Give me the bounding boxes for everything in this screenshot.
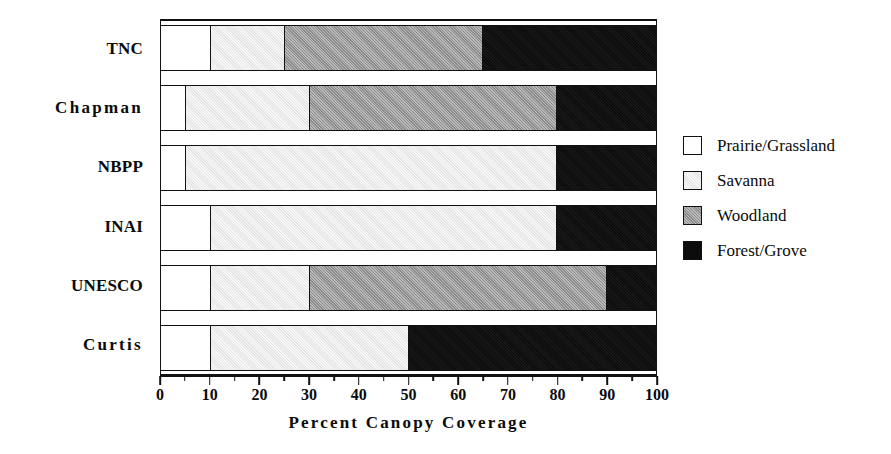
legend-label: Savanna: [717, 171, 775, 191]
bar-segment-woodland: [310, 266, 607, 310]
x-tick-label: 100: [645, 386, 669, 404]
legend: Prairie/GrasslandSavannaWoodlandForest/G…: [683, 128, 888, 268]
bar-segment-prairie: [161, 86, 186, 130]
category-label: UNESCO: [6, 256, 152, 315]
x-tick-major: [457, 376, 459, 385]
bar-segment-prairie: [161, 266, 211, 310]
x-tick-major: [308, 376, 310, 385]
x-tick-major: [159, 376, 161, 385]
bar-row: [161, 25, 656, 71]
category-axis-labels: TNCChapmanNBPPINAIUNESCOCurtis: [6, 19, 152, 375]
legend-swatch-forest: [683, 241, 702, 260]
x-tick-major: [209, 376, 211, 385]
x-tick-minor: [433, 376, 435, 381]
x-tick-major: [656, 376, 658, 385]
legend-swatch-prairie: [683, 136, 702, 155]
bar-segment-savanna: [211, 26, 285, 70]
stacked-bars: [161, 21, 656, 374]
legend-label: Prairie/Grassland: [717, 136, 835, 156]
bar-segment-prairie: [161, 26, 211, 70]
x-tick-label: 70: [500, 386, 516, 404]
bar-segment-woodland: [310, 86, 558, 130]
x-tick-minor: [631, 376, 633, 381]
legend-label: Woodland: [717, 206, 786, 226]
x-tick-minor: [383, 376, 385, 381]
x-tick-major: [259, 376, 261, 385]
bar-segment-woodland: [285, 26, 483, 70]
legend-swatch-savanna: [683, 171, 702, 190]
bar-row: [161, 265, 656, 311]
bar-row: [161, 85, 656, 131]
category-label: INAI: [6, 197, 152, 256]
legend-item: Prairie/Grassland: [683, 128, 888, 163]
plot-area: [160, 19, 657, 375]
x-tick-label: 0: [156, 386, 164, 404]
x-axis-tick-labels: 0102030405060708090100: [160, 386, 657, 408]
legend-item: Forest/Grove: [683, 233, 888, 268]
x-tick-minor: [333, 376, 335, 381]
category-label: TNC: [6, 19, 152, 78]
x-tick-label: 10: [202, 386, 218, 404]
x-tick-minor: [482, 376, 484, 381]
x-tick-major: [606, 376, 608, 385]
bar-segment-forest: [557, 206, 656, 250]
x-tick-minor: [532, 376, 534, 381]
x-axis-title: Percent Canopy Coverage: [160, 413, 657, 433]
bar-segment-savanna: [186, 86, 310, 130]
legend-label: Forest/Grove: [717, 241, 807, 261]
bar-row: [161, 145, 656, 191]
bar-segment-prairie: [161, 206, 211, 250]
bar-segment-forest: [409, 326, 657, 370]
x-tick-major: [358, 376, 360, 385]
x-tick-major: [557, 376, 559, 385]
bar-segment-forest: [483, 26, 656, 70]
category-label: NBPP: [6, 138, 152, 197]
bar-segment-prairie: [161, 146, 186, 190]
bar-segment-prairie: [161, 326, 211, 370]
x-tick-label: 60: [450, 386, 466, 404]
bar-segment-savanna: [211, 266, 310, 310]
category-label: Chapman: [6, 78, 152, 137]
bar-row: [161, 205, 656, 251]
bar-row: [161, 325, 656, 371]
x-tick-label: 40: [351, 386, 367, 404]
x-tick-label: 80: [550, 386, 566, 404]
legend-item: Woodland: [683, 198, 888, 233]
legend-item: Savanna: [683, 163, 888, 198]
x-tick-minor: [184, 376, 186, 381]
category-label: Curtis: [6, 316, 152, 375]
x-tick-minor: [234, 376, 236, 381]
x-tick-minor: [283, 376, 285, 381]
bar-segment-forest: [607, 266, 657, 310]
x-tick-label: 30: [301, 386, 317, 404]
x-tick-major: [507, 376, 509, 385]
bar-segment-forest: [557, 86, 656, 130]
x-tick-label: 50: [401, 386, 417, 404]
canopy-coverage-chart: TNCChapmanNBPPINAIUNESCOCurtis 010203040…: [0, 0, 891, 454]
x-tick-minor: [582, 376, 584, 381]
bar-segment-savanna: [186, 146, 557, 190]
x-tick-label: 20: [251, 386, 267, 404]
x-tick-label: 90: [599, 386, 615, 404]
bar-segment-forest: [557, 146, 656, 190]
bar-segment-savanna: [211, 326, 409, 370]
x-tick-major: [408, 376, 410, 385]
legend-swatch-woodland: [683, 206, 702, 225]
bar-segment-savanna: [211, 206, 558, 250]
